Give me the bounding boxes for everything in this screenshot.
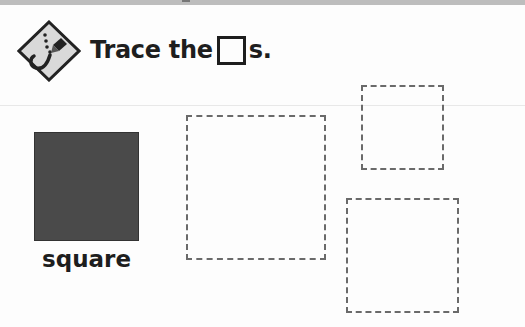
- square-glyph-icon: [217, 36, 246, 65]
- divider-line: [0, 105, 525, 106]
- trace-square-large[interactable]: [186, 115, 326, 260]
- instruction-suffix: s.: [249, 36, 272, 64]
- trace-square-small[interactable]: [361, 85, 444, 170]
- trace-square-medium[interactable]: [346, 198, 459, 313]
- model-square-label: square: [34, 246, 139, 272]
- top-strip-mark: [182, 0, 190, 2]
- top-strip: [0, 0, 525, 5]
- model-square: [34, 132, 139, 241]
- trace-pencil-icon: [17, 20, 81, 82]
- instruction-text: Trace the s.: [90, 33, 272, 67]
- instruction-prefix: Trace the: [90, 36, 213, 64]
